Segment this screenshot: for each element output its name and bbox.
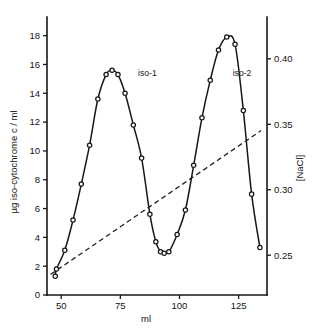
data-point-marker	[258, 245, 262, 249]
figure-container: 024681012141618 5075100125 0.250.300.350…	[0, 0, 312, 329]
data-point-marker	[249, 192, 253, 196]
peak-label-iso-1: iso-1	[138, 68, 157, 78]
data-point-marker	[192, 163, 196, 167]
data-point-marker	[167, 250, 171, 254]
y-axis-left-tick-label: 10	[29, 145, 40, 156]
y-axis-right-tick-label: 0.40	[274, 53, 293, 64]
y-axis-left-tick-label: 18	[29, 30, 40, 41]
y-axis-left-tick-label: 2	[35, 261, 40, 272]
x-axis-tick-label: 100	[172, 300, 188, 311]
data-point-marker	[79, 182, 83, 186]
data-point-marker	[216, 48, 220, 52]
y-axis-left-tick-label: 14	[29, 88, 40, 99]
y-axis-right-tick-label: 0.25	[274, 250, 293, 261]
x-axis-title: ml	[141, 313, 151, 324]
data-point-marker	[131, 123, 135, 127]
y-axis-left-tick-label: 16	[29, 59, 40, 70]
data-point-marker	[54, 267, 58, 271]
data-point-markers	[53, 35, 262, 278]
data-point-marker	[63, 248, 67, 252]
data-point-marker	[96, 97, 100, 101]
data-point-marker	[139, 156, 143, 160]
data-point-marker	[175, 232, 179, 236]
y-axis-left-tick-label: 4	[35, 232, 40, 243]
data-point-marker	[200, 116, 204, 120]
x-axis-tick-label: 50	[56, 300, 67, 311]
y-axis-left-tick-labels: 024681012141618	[29, 30, 40, 300]
y-axis-right-tick-label: 0.30	[274, 184, 293, 195]
data-point-marker	[71, 218, 75, 222]
y-axis-left-tick-label: 8	[35, 174, 40, 185]
data-point-marker	[116, 72, 120, 76]
y-axis-left-tick-label: 6	[35, 203, 40, 214]
data-point-marker	[183, 208, 187, 212]
data-point-marker	[154, 240, 158, 244]
y-axis-left-tick-label: 0	[35, 289, 40, 300]
x-axis-tick-labels: 5075100125	[56, 300, 247, 311]
y-axis-right-tick-label: 0.35	[274, 119, 293, 130]
nacl-gradient-line	[51, 131, 262, 275]
data-point-marker	[87, 143, 91, 147]
elution-profile-chart: 024681012141618 5075100125 0.250.300.350…	[0, 0, 312, 329]
peak-label-iso-2: iso-2	[233, 68, 252, 78]
data-point-marker	[123, 91, 127, 95]
data-point-marker	[208, 78, 212, 82]
data-point-marker	[241, 108, 245, 112]
data-point-marker	[233, 42, 237, 46]
data-point-marker	[53, 274, 57, 278]
x-axis-tick-label: 125	[231, 300, 247, 311]
x-axis-tick-label: 75	[115, 300, 126, 311]
data-point-marker	[148, 212, 152, 216]
data-point-marker	[162, 251, 166, 255]
y-axis-left-title: µg iso-cytochrome c / ml	[8, 110, 19, 213]
y-axis-right-title: [NaCl]	[294, 155, 305, 181]
y-axis-left-tick-label: 12	[29, 116, 40, 127]
y-axis-right-tick-labels: 0.250.300.350.40	[274, 53, 293, 260]
data-point-marker	[104, 72, 108, 76]
data-point-marker	[225, 35, 229, 39]
peak-annotations: iso-1iso-2	[138, 68, 251, 78]
data-point-marker	[110, 68, 114, 72]
